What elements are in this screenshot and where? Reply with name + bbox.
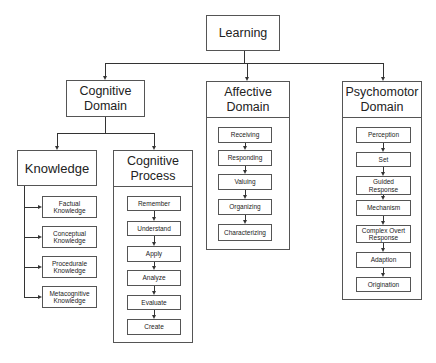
cognitive-process-header: Cognitive Process (114, 151, 192, 187)
learning-label: Learning (219, 26, 268, 41)
valuing-node: Valuing (218, 174, 272, 190)
procedural-knowledge-node: Procedurale Knowledge (42, 256, 97, 278)
connector (57, 133, 58, 146)
create-node: Create (127, 319, 181, 335)
connector (105, 63, 106, 76)
affective-domain-header: Affective Domain (207, 82, 289, 118)
mechanism-node: Mechanism (356, 200, 411, 216)
receiving-node: Receiving (218, 127, 272, 143)
connector (105, 117, 106, 133)
connector (105, 63, 384, 64)
perception-node: Perception (356, 127, 411, 143)
connector (383, 63, 384, 77)
organizing-node: Organizing (218, 199, 272, 215)
responding-node: Responding (218, 150, 272, 166)
knowledge-label: Knowledge (25, 161, 89, 176)
evaluate-node: Evaluate (127, 295, 181, 310)
origination-node: Origination (356, 277, 411, 292)
connector (24, 267, 38, 268)
understand-node: Understand (127, 221, 181, 236)
connector (24, 186, 25, 298)
complex-overt-response-node: Complex Overt Response (356, 225, 411, 243)
connector (24, 297, 38, 298)
guided-response-node: Guided Response (356, 176, 411, 195)
knowledge-node: Knowledge (17, 150, 97, 186)
set-node: Set (356, 152, 411, 167)
psychomotor-domain-label: Psychomotor Domain (346, 85, 419, 115)
remember-node: Remember (127, 196, 181, 211)
analyze-node: Analyze (127, 270, 181, 286)
connector (247, 63, 248, 77)
adaption-node: Adaption (356, 252, 411, 268)
apply-node: Apply (127, 246, 181, 262)
connector (24, 207, 38, 208)
psychomotor-domain-header: Psychomotor Domain (343, 82, 421, 118)
characterizing-node: Characterizing (218, 224, 272, 241)
factual-knowledge-node: Factual Knowledge (42, 196, 97, 218)
cognitive-domain-label: Cognitive Domain (67, 84, 144, 114)
connector (154, 133, 155, 146)
affective-domain-label: Affective Domain (221, 85, 275, 115)
learning-node: Learning (206, 15, 280, 51)
conceptual-knowledge-node: Conceptual Knowledge (42, 226, 97, 248)
connector (24, 237, 38, 238)
connector (57, 133, 155, 134)
connector (244, 51, 245, 63)
cognitive-process-label: Cognitive Process (126, 154, 180, 184)
cognitive-domain-node: Cognitive Domain (66, 80, 145, 117)
metacognitive-knowledge-node: Metacognitive Knowledge (42, 286, 97, 308)
